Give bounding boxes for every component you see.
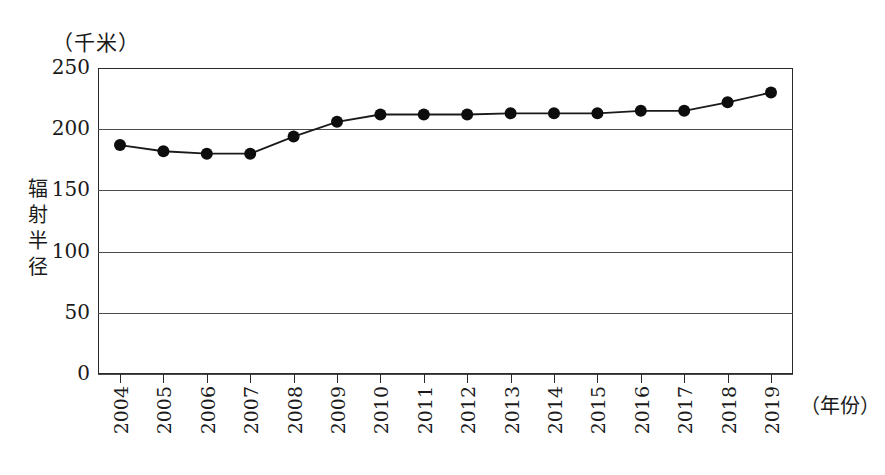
y-axis-tick-label: 100 bbox=[42, 239, 90, 259]
x-axis-tick bbox=[120, 374, 121, 383]
y-axis-tick-text: 50 bbox=[46, 300, 90, 324]
y-axis-tick-label: 0 bbox=[42, 361, 90, 381]
x-axis-tick bbox=[554, 374, 555, 383]
x-axis-tick-text: 2007 bbox=[240, 386, 262, 434]
x-axis-tick bbox=[337, 374, 338, 383]
x-axis-tick bbox=[728, 374, 729, 383]
x-axis-tick-text: 2011 bbox=[414, 386, 436, 434]
line-chart-figure: （千米） 辐 射 半 径 （年份） 050100150200250 200420… bbox=[0, 0, 885, 475]
x-axis-tick-text: 2019 bbox=[761, 386, 783, 434]
x-axis-tick-text: 2010 bbox=[370, 386, 392, 434]
x-axis-tick-text: 2014 bbox=[544, 386, 566, 434]
x-axis-tick bbox=[207, 374, 208, 383]
x-axis-tick-text: 2017 bbox=[674, 386, 696, 434]
x-axis-tick-text: 2005 bbox=[153, 386, 175, 434]
x-axis-tick bbox=[771, 374, 772, 383]
gridline bbox=[98, 190, 793, 191]
x-axis-tick bbox=[641, 374, 642, 383]
y-axis-tick-text: 100 bbox=[46, 239, 90, 263]
x-axis-tick-text: 2018 bbox=[718, 386, 740, 434]
x-axis-tick-text: 2004 bbox=[110, 386, 132, 434]
x-axis-tick-text: 2012 bbox=[457, 386, 479, 434]
y-axis-title-char-2: 射 bbox=[26, 202, 50, 228]
x-axis-tick bbox=[250, 374, 251, 383]
y-axis-tick-text: 250 bbox=[46, 55, 90, 79]
plot-frame bbox=[98, 68, 793, 374]
x-axis-tick bbox=[597, 374, 598, 383]
x-axis-tick bbox=[684, 374, 685, 383]
y-axis-tick-label: 150 bbox=[42, 177, 90, 197]
gridline bbox=[98, 129, 793, 130]
x-axis-title: （年份） bbox=[800, 390, 880, 419]
x-axis-tick-text: 2008 bbox=[284, 386, 306, 434]
x-axis-tick bbox=[380, 374, 381, 383]
x-axis-tick bbox=[467, 374, 468, 383]
y-axis-tick-label: 200 bbox=[42, 116, 90, 136]
gridline bbox=[98, 313, 793, 314]
x-axis-tick-text: 2015 bbox=[587, 386, 609, 434]
x-axis-tick bbox=[511, 374, 512, 383]
x-axis-tick-text: 2009 bbox=[327, 386, 349, 434]
y-axis-tick-text: 200 bbox=[46, 116, 90, 140]
x-axis-tick bbox=[294, 374, 295, 383]
y-axis-tick-label: 250 bbox=[42, 55, 90, 75]
x-axis-tick bbox=[163, 374, 164, 383]
y-axis-tick-text: 0 bbox=[46, 361, 90, 385]
x-axis-tick-text: 2013 bbox=[501, 386, 523, 434]
x-axis-tick bbox=[424, 374, 425, 383]
y-axis-tick-text: 150 bbox=[46, 177, 90, 201]
y-axis-tick-label: 50 bbox=[42, 300, 90, 320]
x-axis-tick-text: 2006 bbox=[197, 386, 219, 434]
gridline bbox=[98, 374, 793, 375]
gridline bbox=[98, 252, 793, 253]
y-axis-unit-label: （千米） bbox=[52, 26, 140, 56]
x-axis-tick-text: 2016 bbox=[631, 386, 653, 434]
